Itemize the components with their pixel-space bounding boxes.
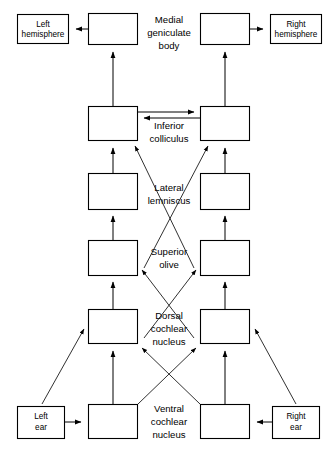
box-inferior-colliculus-left[interactable] <box>89 107 138 141</box>
vcn-line-1: Ventral <box>154 403 184 414</box>
box-dorsal-cochlear-nucleus-left[interactable] <box>89 310 138 344</box>
diagram-canvas: Left hemisphere Right hemisphere <box>0 0 331 455</box>
mgb-line-1: Medial <box>155 14 183 25</box>
label-medial-geniculate-body: Medial geniculate body <box>147 14 191 51</box>
dcn-line-3: nucleus <box>152 336 185 347</box>
label-ventral-cochlear-nucleus: Ventral cochlear nucleus <box>151 403 188 440</box>
ic-line-2: colliculus <box>150 133 189 144</box>
box-dorsal-cochlear-nucleus-right[interactable] <box>201 310 250 344</box>
connector-vcn-left-cross-to-dcn-right <box>138 348 196 404</box>
label-inferior-colliculus: Inferior colliculus <box>150 120 189 144</box>
connector-vcn-right-cross-to-dcn-left <box>142 348 200 404</box>
box-left-hemisphere[interactable]: Left hemisphere <box>18 15 69 44</box>
box-left-ear[interactable]: Left ear <box>18 407 65 439</box>
ll-line-2: lemniscus <box>148 195 191 206</box>
label-superior-olive: Superior olive <box>151 246 188 270</box>
left-ear-label-line2: ear <box>35 423 47 432</box>
so-line-1: Superior <box>151 246 188 257</box>
right-ear-label-line2: ear <box>290 423 302 432</box>
box-ventral-cochlear-nucleus-right[interactable] <box>201 405 250 439</box>
box-lateral-lemniscus-right[interactable] <box>201 174 250 210</box>
vcn-line-3: nucleus <box>152 429 185 440</box>
ic-line-1: Inferior <box>154 120 185 131</box>
right-hemisphere-label-line1: Right <box>286 20 306 29</box>
connector-right-ear-to-dcn-right <box>255 329 296 404</box>
box-superior-olive-right[interactable] <box>201 241 250 276</box>
dcn-line-2: cochlear <box>151 323 188 334</box>
box-right-hemisphere[interactable]: Right hemisphere <box>271 15 322 44</box>
box-ventral-cochlear-nucleus-left[interactable] <box>89 405 138 439</box>
left-hemisphere-label-line1: Left <box>36 20 50 29</box>
right-hemisphere-label-line2: hemisphere <box>275 30 318 39</box>
ll-line-1: Lateral <box>154 182 183 193</box>
mgb-line-3: body <box>159 40 180 51</box>
box-right-ear[interactable]: Right ear <box>273 407 320 439</box>
left-hemisphere-label-line2: hemisphere <box>22 30 65 39</box>
box-medial-geniculate-body-right[interactable] <box>201 14 250 45</box>
box-lateral-lemniscus-left[interactable] <box>89 174 138 210</box>
dcn-line-1: Dorsal <box>155 310 183 321</box>
vcn-line-2: cochlear <box>151 416 188 427</box>
right-ear-label-line1: Right <box>286 412 306 421</box>
so-line-2: olive <box>159 259 179 270</box>
label-dorsal-cochlear-nucleus: Dorsal cochlear nucleus <box>151 310 188 347</box>
auditory-pathway-diagram: Left hemisphere Right hemisphere <box>0 0 331 455</box>
connector-left-ear-to-dcn-left <box>42 329 84 404</box>
box-superior-olive-left[interactable] <box>89 241 138 276</box>
box-medial-geniculate-body-left[interactable] <box>89 14 138 45</box>
mgb-line-2: geniculate <box>147 27 191 38</box>
left-ear-label-line1: Left <box>34 412 48 421</box>
box-inferior-colliculus-right[interactable] <box>201 107 250 141</box>
